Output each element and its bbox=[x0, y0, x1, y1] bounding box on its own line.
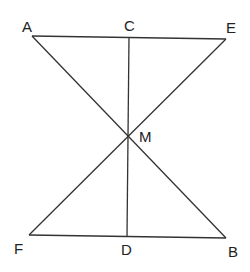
label-f: F bbox=[14, 240, 23, 257]
label-m: M bbox=[139, 128, 152, 145]
label-b: B bbox=[228, 243, 238, 260]
label-e: E bbox=[226, 19, 236, 36]
label-a: A bbox=[22, 18, 32, 35]
label-c: C bbox=[124, 17, 135, 34]
diagram-svg: A C E M F D B bbox=[0, 0, 250, 272]
geometry-diagram: A C E M F D B bbox=[0, 0, 250, 272]
label-d: D bbox=[121, 241, 132, 258]
